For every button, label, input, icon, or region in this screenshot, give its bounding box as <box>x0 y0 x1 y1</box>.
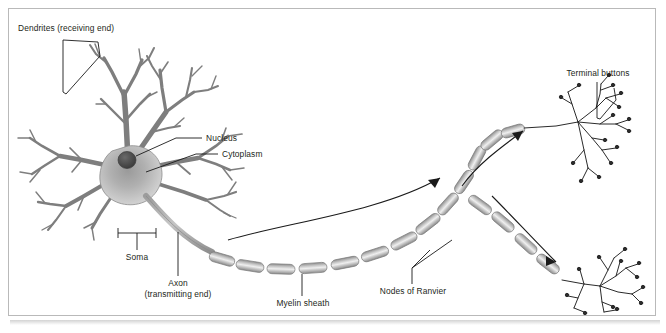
label-soma: Soma <box>118 252 156 263</box>
label-dendrites: Dendrites (receiving end) <box>18 23 114 34</box>
terminal-buttons-lower <box>562 247 645 314</box>
myelin-sheath-segments <box>208 123 561 276</box>
label-nodes-of-ranvier: Nodes of Ranvier <box>370 286 456 297</box>
label-nucleus: Nucleus <box>206 133 237 144</box>
nodes-leader-fork <box>412 240 452 284</box>
label-cytoplasm: Cytoplasm <box>222 149 262 160</box>
figure-canvas: Dendrites (receiving end) Nucleus Cytopl… <box>0 0 666 333</box>
label-axon: Axon <box>146 278 210 289</box>
soma-bracket <box>118 228 156 250</box>
axon-path <box>146 196 212 252</box>
label-myelin-sheath: Myelin sheath <box>267 298 339 309</box>
nucleus-shape <box>118 152 136 169</box>
label-terminal-buttons: Terminal buttons <box>562 68 634 79</box>
label-axon-subtitle: (transmitting end) <box>131 289 225 300</box>
dendrites-bracket <box>63 40 100 94</box>
neuron-illustration <box>0 0 666 333</box>
